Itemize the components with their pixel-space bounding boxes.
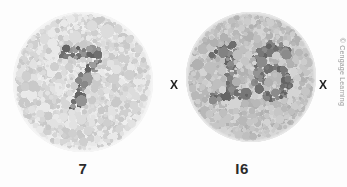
plate-left-label: 7	[63, 161, 103, 176]
copyright-credit: © Cengage Learning	[339, 38, 346, 106]
plate-left-dot-mosaic	[13, 12, 153, 152]
x-marker-left-icon: X	[170, 79, 178, 91]
ishihara-figure: 7 I6 X X © Cengage Learning	[0, 0, 347, 187]
x-marker-right-icon: X	[319, 79, 327, 91]
ishihara-plate-right	[186, 12, 316, 142]
plate-right-label: I6	[222, 161, 262, 176]
ishihara-plate-left	[13, 12, 153, 152]
plate-right-dot-mosaic	[186, 12, 316, 142]
